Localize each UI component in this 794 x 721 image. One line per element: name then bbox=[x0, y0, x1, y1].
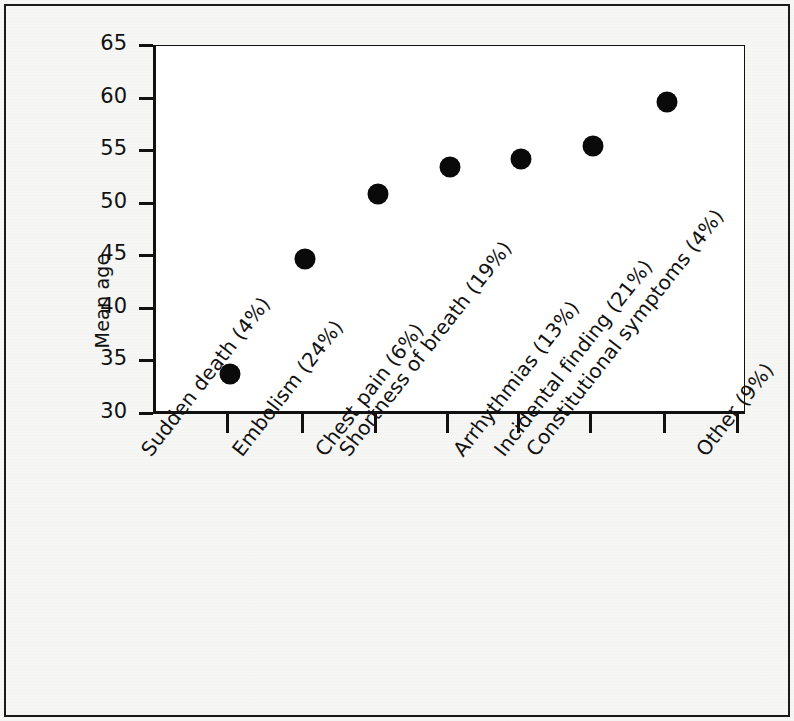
y-axis-tick-mark bbox=[139, 359, 153, 362]
x-axis-tick-mark bbox=[301, 414, 304, 433]
data-point bbox=[583, 135, 604, 156]
x-axis-tick-mark bbox=[446, 414, 449, 433]
y-axis-tick-label: 65 bbox=[67, 31, 127, 55]
data-point bbox=[440, 156, 461, 177]
figure-container: Mean age 30 35 40 45 50 55 60 65 bbox=[0, 0, 794, 721]
x-axis-tick-mark bbox=[226, 414, 229, 433]
y-axis-tick-mark bbox=[139, 149, 153, 152]
y-axis-tick-mark bbox=[139, 44, 153, 47]
data-point bbox=[511, 148, 532, 169]
y-axis-tick-label: 45 bbox=[67, 241, 127, 265]
y-axis-tick-mark bbox=[139, 254, 153, 257]
data-point-layer bbox=[156, 46, 744, 411]
y-axis-tick-label: 35 bbox=[67, 346, 127, 370]
y-axis-tick-label: 55 bbox=[67, 136, 127, 160]
y-axis-tick-label: 50 bbox=[67, 189, 127, 213]
x-axis-tick-mark bbox=[589, 414, 592, 433]
y-axis-tick-mark bbox=[139, 202, 153, 205]
y-axis-tick-mark bbox=[139, 97, 153, 100]
data-point bbox=[295, 249, 316, 270]
y-axis-tick-mark bbox=[139, 307, 153, 310]
x-axis-tick-mark bbox=[663, 414, 666, 433]
y-axis-title: Mean age bbox=[38, 150, 78, 300]
y-axis-tick-label: 30 bbox=[67, 399, 127, 423]
y-axis-tick-mark bbox=[139, 412, 153, 415]
data-point bbox=[657, 91, 678, 112]
plot-panel bbox=[153, 45, 745, 414]
data-point bbox=[368, 184, 389, 205]
y-axis-tick-label: 40 bbox=[67, 294, 127, 318]
y-axis-tick-label: 60 bbox=[67, 84, 127, 108]
